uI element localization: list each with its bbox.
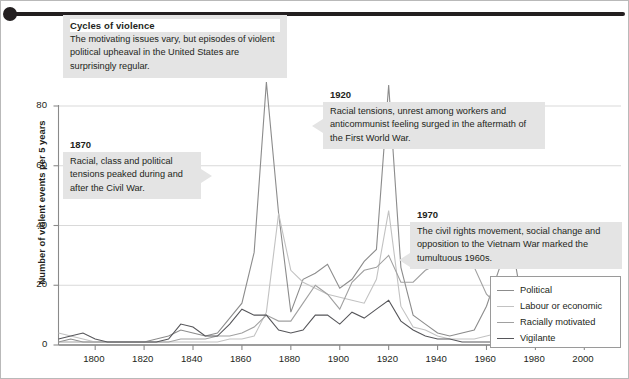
annotation-title-body: The motivating issues vary, but episodes… bbox=[70, 33, 280, 73]
annotation-1920-body: Racial tensions, unrest among workers an… bbox=[323, 102, 545, 149]
x-tick-label: 1820 bbox=[132, 353, 153, 364]
legend-item-political[interactable]: Political bbox=[497, 282, 614, 298]
legend-item-labour[interactable]: Labour or economic bbox=[497, 298, 614, 314]
annotation-1870-heading: 1870 bbox=[70, 138, 91, 151]
legend-item-vigilante[interactable]: Vigilante bbox=[497, 330, 614, 346]
legend-item-racial[interactable]: Racially motivated bbox=[497, 314, 614, 330]
legend-swatch-vigilante bbox=[497, 338, 514, 339]
chart-stage: Number of violent events per 5 years Cyc… bbox=[1, 1, 628, 378]
x-tick-label: 2000 bbox=[572, 353, 593, 364]
annotation-1970-body: The civil rights movement, social change… bbox=[410, 222, 622, 269]
legend-swatch-racial bbox=[497, 322, 514, 323]
x-tick-label: 1840 bbox=[181, 353, 202, 364]
annotation-title: Cycles of violence The motivating issues… bbox=[63, 15, 287, 78]
annotation-1870: Racial, class and political tensions pea… bbox=[63, 152, 201, 199]
x-tick-label: 1800 bbox=[83, 353, 104, 364]
y-tick-label: 60 bbox=[36, 159, 47, 170]
legend-label-labour: Labour or economic bbox=[520, 301, 602, 311]
annotation-1870-pointer bbox=[201, 169, 212, 183]
legend-swatch-labour bbox=[497, 306, 514, 307]
y-tick-label: 80 bbox=[36, 99, 47, 110]
x-tick-label: 1960 bbox=[474, 353, 495, 364]
x-tick-label: 1860 bbox=[230, 353, 251, 364]
annotation-1970: The civil rights movement, social change… bbox=[410, 222, 622, 269]
annotation-title-heading: Cycles of violence bbox=[70, 19, 280, 32]
x-tick-label: 1880 bbox=[279, 353, 300, 364]
x-tick-label: 1920 bbox=[377, 353, 398, 364]
legend-label-political: Political bbox=[520, 285, 552, 295]
x-tick-label: 1940 bbox=[426, 353, 447, 364]
y-tick-label: 40 bbox=[36, 219, 47, 230]
legend-label-racial: Racially motivated bbox=[520, 317, 595, 327]
x-tick-label: 1900 bbox=[328, 353, 349, 364]
y-tick-label: 20 bbox=[36, 278, 47, 289]
annotation-1920: Racial tensions, unrest among workers an… bbox=[323, 102, 545, 149]
x-tick-label: 1980 bbox=[523, 353, 544, 364]
annotation-1920-pointer bbox=[312, 119, 323, 133]
legend-swatch-political bbox=[497, 290, 514, 291]
y-tick-label: 0 bbox=[42, 338, 47, 349]
legend-label-vigilante: Vigilante bbox=[520, 333, 556, 343]
annotation-1970-pointer bbox=[399, 253, 410, 267]
annotation-1970-heading: 1970 bbox=[417, 208, 438, 221]
annotation-1870-body: Racial, class and political tensions pea… bbox=[63, 152, 201, 199]
chart-legend: Political Labour or economic Racially mo… bbox=[490, 276, 621, 348]
annotation-1920-heading: 1920 bbox=[330, 88, 351, 101]
